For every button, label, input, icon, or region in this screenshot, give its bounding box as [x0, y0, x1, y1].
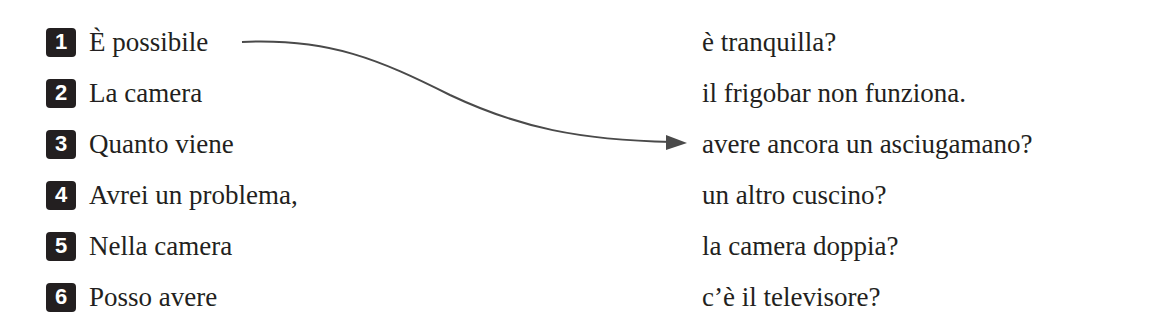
- match-arrow-icon: [0, 0, 1158, 331]
